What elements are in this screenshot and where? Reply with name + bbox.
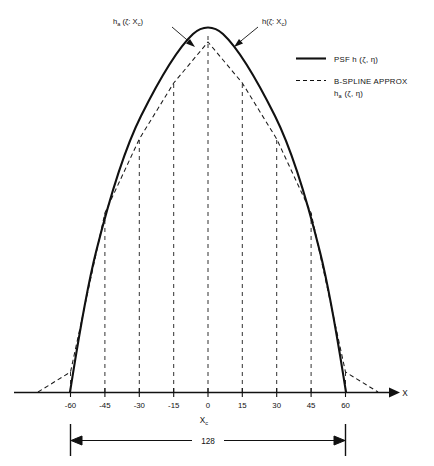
dimension-bar-128: 128 [71,424,346,456]
center-x-subscript: c [205,420,208,426]
svg-text:ha (ζ: Xc): ha (ζ: Xc) [113,17,143,27]
tick-label-neg45: -45 [99,401,111,410]
chart-svg: -60 -45 -30 -15 0 15 30 45 60 X Xc 128 [0,0,434,466]
tick-label-30: 30 [272,401,281,410]
legend-label-bspline-2: ha (ζ, η) [334,89,363,99]
legend-label-bspline: B-SPLINE APPROX [334,77,408,86]
dimension-arrow-right [334,436,345,445]
x-axis-label: X [402,389,408,398]
svg-text:h(ζ: Xc): h(ζ: Xc) [262,17,287,27]
x-axis-tick-labels: -60 -45 -30 -15 0 15 30 45 60 [65,401,351,410]
dimension-label: 128 [201,437,215,446]
tick-label-60: 60 [341,401,350,410]
tick-label-neg60: -60 [65,401,77,410]
legend-psf-mid: ζ, η [362,55,375,64]
tick-label-15: 15 [238,401,247,410]
ann-right-close: ) [284,17,287,26]
svg-text:Xc: Xc [200,416,208,426]
ann-left-rest: (ζ: X [120,17,137,26]
psf-curve [70,28,346,393]
legend: PSF h (ζ, η) B-SPLINE APPROX ha (ζ, η) [296,55,408,100]
tick-label-neg15: -15 [168,401,180,410]
annotation-ha: ha (ζ: Xc) [113,17,195,47]
legend-label-psf: PSF h (ζ, η) [334,55,378,64]
tick-label-0: 0 [206,401,211,410]
legend-bspline-rest: (ζ, η) [342,89,363,98]
dimension-arrow-left [71,436,82,445]
annotation-h: h(ζ: Xc) [234,17,287,47]
psf-bspline-figure: -60 -45 -30 -15 0 15 30 45 60 X Xc 128 [0,0,434,466]
center-xc-label: Xc [200,416,208,426]
legend-psf-pre: PSF h ( [334,55,362,64]
ann-left-close: ) [140,17,143,26]
gridlines [71,33,346,392]
tick-label-neg30: -30 [134,401,146,410]
legend-psf-post: ) [375,55,378,64]
tick-label-45: 45 [307,401,316,410]
x-axis [14,388,400,398]
x-axis-arrowhead [389,388,400,398]
ann-right-h: h(ζ: X [262,17,281,26]
